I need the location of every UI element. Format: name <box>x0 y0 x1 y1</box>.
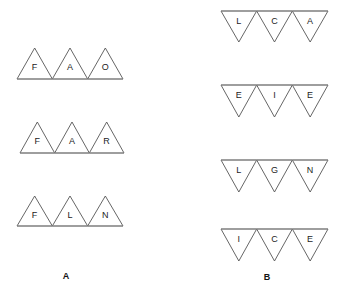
triangle-letter: A <box>307 16 313 26</box>
triangle-letter: F <box>32 62 38 72</box>
triangle-letter: A <box>69 136 75 146</box>
triangle-letter: I <box>237 234 240 244</box>
triangle-letter-figure: FAOFARFLN LCAEIELGNICE A B <box>0 0 350 295</box>
triangle-letter: C <box>271 16 278 26</box>
triangle-letter: C <box>271 234 278 244</box>
triangle-letter: G <box>271 165 278 175</box>
triangle-row: FLN <box>17 196 123 226</box>
triangle-letter: L <box>236 16 241 26</box>
triangle-row: LCA <box>221 11 328 42</box>
triangle-letter: L <box>236 165 241 175</box>
triangle-row: FAO <box>17 48 123 79</box>
panel-b: LCAEIELGNICE <box>221 11 328 261</box>
triangle-letter: R <box>103 136 110 146</box>
panel-a-caption: A <box>63 271 70 281</box>
triangle-letter: N <box>102 210 109 220</box>
triangle-row: LGN <box>221 160 328 192</box>
triangle-letter: E <box>307 90 313 100</box>
triangle-row: FAR <box>20 122 124 153</box>
triangle-letter: E <box>307 234 313 244</box>
panel-a: FAOFARFLN <box>17 48 124 226</box>
triangle-letter: N <box>307 165 314 175</box>
triangle-letter: F <box>32 210 38 220</box>
panel-b-caption: B <box>264 272 271 282</box>
triangle-letter: A <box>67 62 73 72</box>
triangle-row: EIE <box>221 85 328 117</box>
triangle-letter: F <box>34 136 40 146</box>
triangle-row: ICE <box>221 229 328 261</box>
triangle-letter: O <box>102 62 109 72</box>
triangle-letter: I <box>273 90 276 100</box>
figure-root: FAOFARFLN LCAEIELGNICE A B <box>0 0 350 295</box>
triangle-letter: L <box>67 210 72 220</box>
triangle-letter: E <box>236 90 242 100</box>
